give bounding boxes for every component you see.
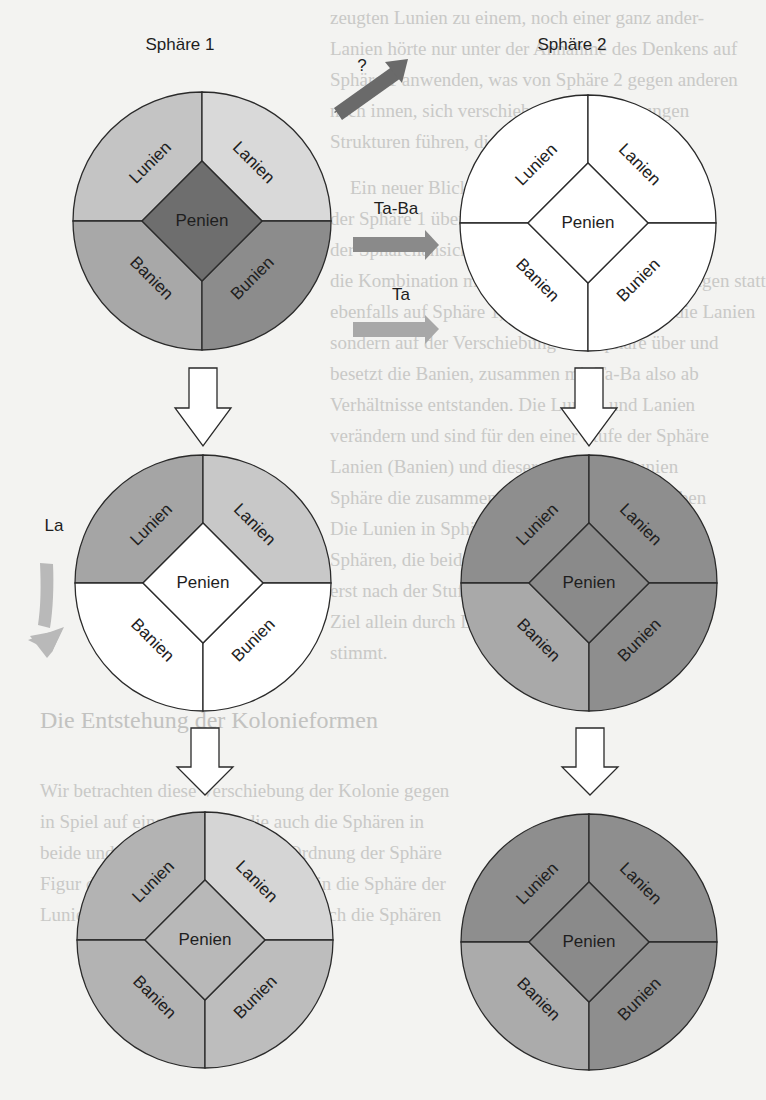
label-center: Penien	[177, 573, 230, 592]
sphere-circle-sphere1-after-la: LunienLanienBanienBunienPenien	[75, 455, 331, 711]
sphere-circle-sphere1-final: LunienLanienBanienBunienPenien	[77, 812, 333, 1068]
hollow-down-arrow-icon	[562, 728, 618, 795]
sphere-circle-sphere2: LunienLanienBanienBunienPenien	[460, 95, 716, 351]
hollow-down-arrow-icon	[561, 368, 617, 446]
label-center: Penien	[176, 211, 229, 230]
right-arrow-icon	[353, 315, 439, 344]
la-label: La	[45, 516, 64, 535]
sphere-circle-sphere2-after: LunienLanienBanienBunienPenien	[461, 455, 717, 711]
label-center: Penien	[562, 213, 615, 232]
sphere1-title: Sphäre 1	[146, 35, 215, 54]
curved-down-arrow-icon	[28, 563, 64, 658]
diagonal-arrow-icon	[334, 59, 408, 120]
ta-ba-label: Ta-Ba	[374, 199, 419, 218]
label-center: Penien	[179, 930, 232, 949]
sphere-circle-sphere1: LunienLanienBanienBunienPenien	[73, 92, 331, 350]
label-center: Penien	[563, 932, 616, 951]
hollow-down-arrow-icon	[177, 728, 233, 795]
hollow-down-arrow-icon	[175, 368, 231, 446]
sphere-circle-sphere2-final: LunienLanienBanienBunienPenien	[461, 814, 717, 1070]
question-label: ?	[357, 56, 366, 75]
right-arrow-icon	[353, 230, 439, 260]
sphere2-title: Sphäre 2	[538, 35, 607, 54]
ta-label: Ta	[392, 285, 411, 304]
label-center: Penien	[563, 573, 616, 592]
